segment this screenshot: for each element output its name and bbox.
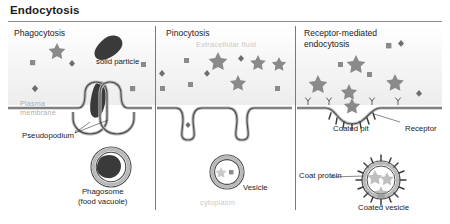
solid-particle-shape xyxy=(94,35,122,60)
diagram-artwork xyxy=(0,0,450,224)
phagosome-shape xyxy=(91,147,131,187)
receptor-mediated-particles xyxy=(309,40,422,100)
figure-endocytosis: Endocytosis Phagocytosis Pinocytosis Rec… xyxy=(0,0,450,224)
plasma-membrane-coated-pit xyxy=(297,98,442,130)
coated-vesicle-shape xyxy=(331,155,406,205)
plasma-membrane-pinocytosis xyxy=(157,108,292,140)
pinocytosis-particles xyxy=(159,52,286,91)
pinocytic-vesicle-shape xyxy=(210,155,244,189)
